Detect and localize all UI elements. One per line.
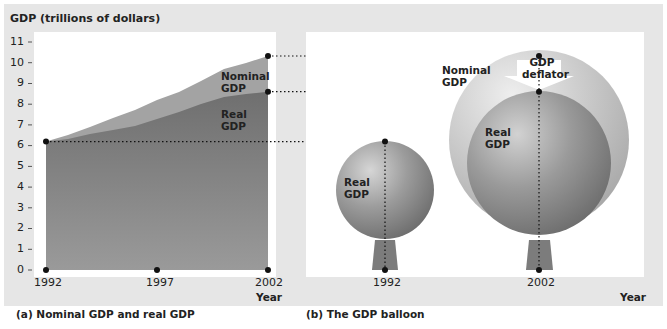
y-tick: 1 [2,242,24,255]
real-gdp-2002-label: RealGDP [485,126,511,150]
y-tick: 8 [2,97,24,110]
x-axis-title-left: Year [256,291,282,303]
y-tick: 0 [2,263,24,276]
y-tick: 2 [2,221,24,234]
x-axis-title-right: Year [620,291,646,303]
y-tick: 10 [2,56,24,69]
y-tick: 3 [2,201,24,214]
chart-graphics [0,0,667,329]
gdp-deflator-label: GDPdeflator [522,56,562,80]
real-gdp-1992-label: RealGDP [344,176,370,200]
balloon-year-1992: 1992 [373,276,401,289]
y-tick: 6 [2,138,24,151]
y-tick: 11 [2,35,24,48]
caption-b: (b) The GDP balloon [306,308,425,320]
nominal-gdp-label: NominalGDP [221,70,270,94]
y-tick: 7 [2,118,24,131]
x-tick-1997: 1997 [146,276,174,289]
y-tick: 5 [2,159,24,172]
x-tick-2002: 2002 [255,276,283,289]
caption-a: (a) Nominal GDP and real GDP [16,308,195,320]
x-tick-1992: 1992 [34,276,62,289]
balloon-year-2002: 2002 [527,276,555,289]
y-tick: 4 [2,180,24,193]
nominal-gdp-balloon-label: NominalGDP [442,64,491,88]
real-gdp-label: RealGDP [221,108,247,132]
y-tick: 9 [2,76,24,89]
